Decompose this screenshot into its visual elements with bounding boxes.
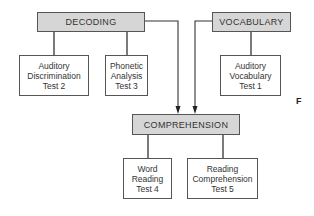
- test-number: Test 5: [211, 184, 234, 194]
- test-box-reading-comprehension: Reading Comprehension Test 5: [187, 158, 258, 199]
- test-box-auditory-vocabulary: Auditory Vocabulary Test 1: [220, 55, 281, 96]
- vocabulary-label: VOCABULARY: [219, 17, 283, 27]
- arrow-decoding-to-comprehension: [145, 21, 178, 106]
- test-label-line: Analysis: [111, 71, 143, 81]
- test-number: Test 2: [43, 81, 66, 91]
- comprehension-category-box: COMPREHENSION: [132, 114, 240, 135]
- test-box-auditory-discrimination: Auditory Discrimination Test 2: [19, 55, 89, 96]
- test-label-line: Reading: [132, 174, 164, 184]
- test-box-word-reading: Word Reading Test 4: [123, 158, 172, 199]
- test-label-line: Auditory: [38, 61, 69, 71]
- decoding-category-box: DECODING: [37, 12, 145, 32]
- test-number: Test 4: [136, 184, 159, 194]
- arrowhead-icon: [193, 106, 198, 114]
- figure-label-fragment: F: [296, 96, 302, 106]
- decoding-label: DECODING: [66, 17, 117, 27]
- test-label-line: Word: [137, 164, 157, 174]
- test-label-line: Discrimination: [27, 71, 80, 81]
- test-label-line: Auditory: [235, 61, 266, 71]
- test-box-phonetic-analysis: Phonetic Analysis Test 3: [105, 55, 148, 96]
- test-number: Test 3: [115, 81, 138, 91]
- test-label-line: Vocabulary: [229, 71, 271, 81]
- test-number: Test 1: [239, 81, 262, 91]
- vocabulary-category-box: VOCABULARY: [212, 12, 291, 32]
- comprehension-label: COMPREHENSION: [144, 120, 228, 130]
- test-label-line: Comprehension: [192, 174, 252, 184]
- test-label-line: Phonetic: [110, 61, 143, 71]
- test-label-line: Reading: [207, 164, 239, 174]
- arrowhead-icon: [176, 106, 181, 114]
- arrow-vocabulary-to-comprehension: [195, 21, 212, 106]
